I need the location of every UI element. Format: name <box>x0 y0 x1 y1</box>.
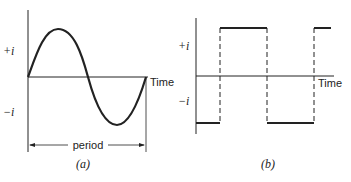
plus-i-label-a: +i <box>3 44 14 58</box>
time-label-a: Time <box>150 76 174 88</box>
plus-i-label-b: +i <box>178 39 189 53</box>
minus-i-label-a: −i <box>3 105 14 119</box>
panel-b-square-wave: +i −i Time (b) <box>178 18 342 171</box>
time-label-b: Time <box>318 77 342 89</box>
figure-canvas: +i −i Time period (a) +i −i Time (b) <box>0 0 351 182</box>
panel-a-sine-wave: +i −i Time period (a) <box>3 10 174 171</box>
caption-b: (b) <box>261 157 275 171</box>
arrowhead-right-icon <box>139 143 145 147</box>
caption-a: (a) <box>76 157 90 171</box>
minus-i-label-b: −i <box>178 94 189 108</box>
period-label: period <box>73 139 104 151</box>
arrowhead-left-icon <box>29 143 35 147</box>
